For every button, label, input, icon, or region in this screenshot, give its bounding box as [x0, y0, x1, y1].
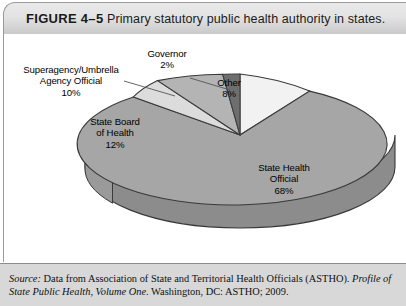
source-body-2: . Washington, DC: ASTHO; 2009. — [146, 286, 288, 297]
figure-source-block: Source: Data from Association of State a… — [0, 263, 406, 306]
figure-title: FIGURE 4–5 Primary statutory public heal… — [4, 11, 385, 26]
pie-label-state-health-official: State Health Official 68% — [236, 162, 332, 196]
source-body-1: Data from Association of State and Terri… — [41, 273, 352, 284]
pie-label-governor: Governor 2% — [124, 48, 210, 71]
source-title-italic-2: Public Health, Volume One — [32, 286, 146, 297]
figure-title-text: Primary statutory public health authorit… — [107, 12, 385, 26]
pie-label-superagency: Superagency/Umbrella Agency Official 10% — [10, 64, 132, 98]
source-prefix: Source: — [9, 273, 41, 284]
figure-number-label: FIGURE 4–5 — [26, 11, 103, 26]
figure-source-text: Source: Data from Association of State a… — [9, 272, 397, 299]
pie-label-state-board-of-health: State Board of Health 12% — [74, 116, 156, 150]
chart-plot-area: Superagency/Umbrella Agency Official 10%… — [4, 34, 406, 262]
figure-title-bar: FIGURE 4–5 Primary statutory public heal… — [3, 2, 406, 34]
figure-container: FIGURE 4–5 Primary statutory public heal… — [0, 0, 406, 306]
pie-label-other: Other 8% — [204, 77, 254, 100]
